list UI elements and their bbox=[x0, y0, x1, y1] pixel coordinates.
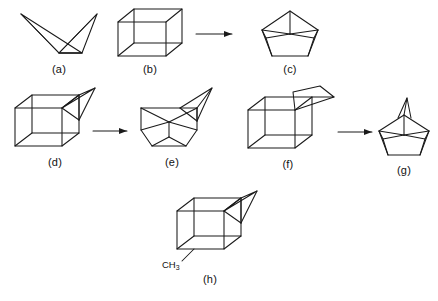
methyl-label-text: CH bbox=[162, 259, 176, 270]
structure-e-foot-right bbox=[169, 137, 186, 146]
label-c: (c) bbox=[283, 63, 296, 75]
methyl-label-count: 3 bbox=[176, 264, 180, 271]
structure-h bbox=[177, 191, 257, 261]
structure-c-strut-right bbox=[308, 38, 314, 56]
structure-g bbox=[379, 98, 429, 155]
arrow-b-to-c-head bbox=[224, 31, 232, 37]
label-b: (b) bbox=[143, 63, 157, 75]
structure-d-edge-tl bbox=[15, 95, 32, 108]
structure-h-edge-br bbox=[224, 236, 241, 249]
structure-a-right-face bbox=[59, 14, 97, 53]
structure-e-foot-left bbox=[152, 137, 169, 146]
label-h: (h) bbox=[203, 273, 217, 285]
structure-c-strut-left bbox=[266, 38, 272, 56]
structure-d-edge-br bbox=[62, 133, 79, 146]
structure-f-edge-bl bbox=[248, 135, 265, 148]
arrow-d-to-e-head bbox=[119, 128, 127, 134]
label-f: (f) bbox=[283, 158, 294, 170]
structure-d bbox=[15, 88, 95, 146]
structure-b-edge-tr bbox=[166, 9, 182, 22]
structure-e-band-right bbox=[169, 122, 197, 130]
label-g: (g) bbox=[397, 164, 411, 176]
structure-e bbox=[141, 88, 212, 146]
structure-c bbox=[262, 11, 318, 56]
label-d: (d) bbox=[48, 156, 62, 168]
structure-f-flap-fold bbox=[295, 97, 334, 110]
structure-a bbox=[21, 14, 97, 53]
structure-c-ridge-left bbox=[262, 30, 290, 34]
structure-e-band-left bbox=[141, 122, 169, 130]
structure-d-edge-bl bbox=[15, 133, 32, 146]
structure-h-spike-lower-left bbox=[224, 211, 241, 223]
label-e: (e) bbox=[165, 156, 179, 168]
methyl-label: CH3 bbox=[162, 259, 180, 271]
structure-g-ridge-right bbox=[404, 131, 429, 135]
structure-b-back-face bbox=[134, 9, 182, 43]
reaction-scheme: (a) (b) (c) bbox=[0, 0, 438, 301]
arrow-d-to-e bbox=[93, 128, 127, 134]
structure-d-spike-lower-left bbox=[62, 108, 79, 120]
structure-b-edge-tl bbox=[118, 9, 134, 22]
structure-g-ridge-left bbox=[379, 131, 404, 135]
structure-a-left-face bbox=[21, 14, 82, 53]
structure-h-edge-tl bbox=[177, 198, 194, 211]
structure-h-methyl-bond bbox=[182, 249, 194, 261]
structure-e-diag-left bbox=[141, 108, 169, 122]
arrow-f-to-g bbox=[338, 129, 372, 135]
structure-b-front-face bbox=[118, 22, 166, 56]
structure-a-wings bbox=[21, 14, 97, 53]
structure-f-edge-tr bbox=[295, 97, 312, 110]
structure-f-edge-tl bbox=[248, 97, 265, 110]
structure-b-edge-br bbox=[166, 43, 182, 56]
structure-b bbox=[118, 9, 182, 56]
arrow-f-to-g-head bbox=[364, 129, 372, 135]
structure-g-strut-right bbox=[420, 139, 425, 155]
structure-g-strut-left bbox=[383, 139, 388, 155]
structure-f-edge-br bbox=[295, 135, 312, 148]
structure-e-spike-lower-left bbox=[180, 108, 197, 121]
label-a: (a) bbox=[52, 63, 66, 75]
arrow-b-to-c bbox=[196, 31, 232, 37]
structure-f bbox=[248, 86, 334, 148]
structure-h-edge-bl bbox=[177, 236, 194, 249]
structure-b-edge-bl bbox=[118, 43, 134, 56]
structure-c-ridge-right bbox=[290, 30, 318, 34]
